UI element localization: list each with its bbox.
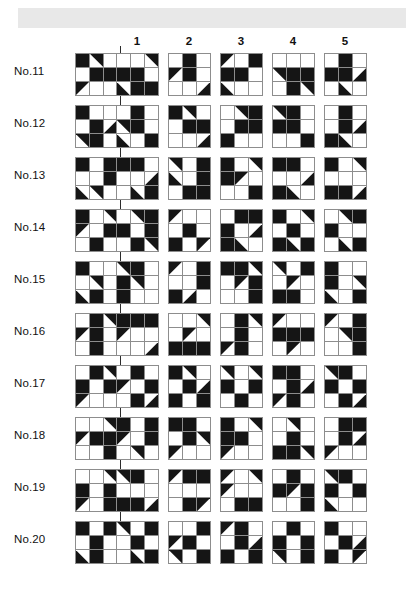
cell-7-bl xyxy=(287,186,301,200)
question-figure-no18[interactable] xyxy=(75,417,118,460)
option-figure-no16-5[interactable] xyxy=(324,313,367,356)
option-figure-no11-5[interactable] xyxy=(324,53,367,96)
cell-3-0 xyxy=(221,536,235,550)
option-figure-no11-3[interactable] xyxy=(220,53,263,96)
option-figure-no11-4[interactable] xyxy=(272,53,315,96)
option-figure-no16-4[interactable] xyxy=(272,313,315,356)
option-figure-no16-2[interactable] xyxy=(168,313,211,356)
option-figure-no13-1[interactable] xyxy=(116,157,159,200)
puzzle-row: No.12 xyxy=(0,100,406,152)
cell-4-tr xyxy=(90,276,104,290)
cell-5-br xyxy=(249,224,263,238)
option-figure-no16-3[interactable] xyxy=(220,313,263,356)
option-figure-no18-3[interactable] xyxy=(220,417,263,460)
cell-7-tl xyxy=(287,342,301,356)
option-figure-no20-2[interactable] xyxy=(168,521,211,564)
cell-1-0 xyxy=(287,314,301,328)
option-figure-no18-2[interactable] xyxy=(168,417,211,460)
cell-0-tl xyxy=(325,314,339,328)
option-figure-no17-5[interactable] xyxy=(324,365,367,408)
question-figure-no17[interactable] xyxy=(75,365,118,408)
cell-4-1 xyxy=(183,68,197,82)
question-figure-no16[interactable] xyxy=(75,313,118,356)
option-figure-no20-5[interactable] xyxy=(324,521,367,564)
option-figure-no19-4[interactable] xyxy=(272,469,315,512)
option-figure-no13-4[interactable] xyxy=(272,157,315,200)
cell-0-1 xyxy=(76,262,90,276)
cell-4-0 xyxy=(90,224,104,238)
cell-1-1 xyxy=(287,158,301,172)
cell-4-0 xyxy=(131,172,145,186)
cell-8-0 xyxy=(301,342,315,356)
option-figure-no17-4[interactable] xyxy=(272,365,315,408)
cell-0-1 xyxy=(169,418,183,432)
cell-7-0 xyxy=(235,290,249,304)
option-figure-no14-3[interactable] xyxy=(220,209,263,252)
option-figure-no15-3[interactable] xyxy=(220,261,263,304)
option-figure-no18-5[interactable] xyxy=(324,417,367,460)
cell-7-0 xyxy=(339,290,353,304)
option-figure-no17-2[interactable] xyxy=(168,365,211,408)
option-figure-no20-3[interactable] xyxy=(220,521,263,564)
cell-1-1 xyxy=(339,470,353,484)
option-figure-no14-1[interactable] xyxy=(116,209,159,252)
option-figure-no19-2[interactable] xyxy=(168,469,211,512)
option-figure-no12-2[interactable] xyxy=(168,105,211,148)
option-figure-no12-4[interactable] xyxy=(272,105,315,148)
cell-6-1 xyxy=(325,550,339,564)
cell-1-tr xyxy=(235,106,249,120)
cell-1-0 xyxy=(183,158,197,172)
option-figure-no18-1[interactable] xyxy=(116,417,159,460)
option-figure-no14-2[interactable] xyxy=(168,209,211,252)
cell-1-0 xyxy=(339,522,353,536)
option-figure-no17-3[interactable] xyxy=(220,365,263,408)
option-figure-no11-2[interactable] xyxy=(168,53,211,96)
option-figure-no14-4[interactable] xyxy=(272,209,315,252)
cell-5-0 xyxy=(353,224,367,238)
question-figure-no11[interactable] xyxy=(75,53,118,96)
option-figure-no19-3[interactable] xyxy=(220,469,263,512)
option-figure-no17-1[interactable] xyxy=(116,365,159,408)
option-figure-no15-5[interactable] xyxy=(324,261,367,304)
option-figure-no11-1[interactable] xyxy=(116,53,159,96)
question-figure-no14[interactable] xyxy=(75,209,118,252)
option-figure-no12-1[interactable] xyxy=(116,105,159,148)
cell-8-1 xyxy=(145,186,159,200)
option-figure-no13-3[interactable] xyxy=(220,157,263,200)
option-figure-no14-5[interactable] xyxy=(324,209,367,252)
option-figure-no13-2[interactable] xyxy=(168,157,211,200)
option-figure-no16-1[interactable] xyxy=(116,313,159,356)
option-figure-no12-5[interactable] xyxy=(324,105,367,148)
question-figure-no13[interactable] xyxy=(75,157,118,200)
option-figure-no20-1[interactable] xyxy=(116,521,159,564)
cell-5-0 xyxy=(197,328,211,342)
option-figure-no18-4[interactable] xyxy=(272,417,315,460)
cell-6-0 xyxy=(169,498,183,512)
cell-8-br xyxy=(197,82,211,96)
option-figure-no15-4[interactable] xyxy=(272,261,315,304)
question-figure-no15[interactable] xyxy=(75,261,118,304)
option-figure-no19-1[interactable] xyxy=(116,469,159,512)
cell-0-1 xyxy=(117,418,131,432)
cell-0-1 xyxy=(273,158,287,172)
question-figure-no20[interactable] xyxy=(75,521,118,564)
cell-3-0 xyxy=(325,172,339,186)
option-figure-no12-3[interactable] xyxy=(220,105,263,148)
cell-6-0 xyxy=(273,82,287,96)
cell-7-1 xyxy=(131,498,145,512)
question-figure-no19[interactable] xyxy=(75,469,118,512)
option-figure-no15-1[interactable] xyxy=(116,261,159,304)
option-figure-no13-5[interactable] xyxy=(324,157,367,200)
option-figure-no19-5[interactable] xyxy=(324,469,367,512)
cell-0-1 xyxy=(117,314,131,328)
cell-0-1 xyxy=(221,418,235,432)
option-figure-no15-2[interactable] xyxy=(168,261,211,304)
cell-8-0 xyxy=(249,446,263,460)
cell-5-0 xyxy=(353,172,367,186)
option-figure-no20-4[interactable] xyxy=(272,521,315,564)
cell-6-1 xyxy=(169,342,183,356)
cell-6-1 xyxy=(169,290,183,304)
question-figure-no12[interactable] xyxy=(75,105,118,148)
cell-3-1 xyxy=(325,224,339,238)
cell-4-1 xyxy=(183,536,197,550)
